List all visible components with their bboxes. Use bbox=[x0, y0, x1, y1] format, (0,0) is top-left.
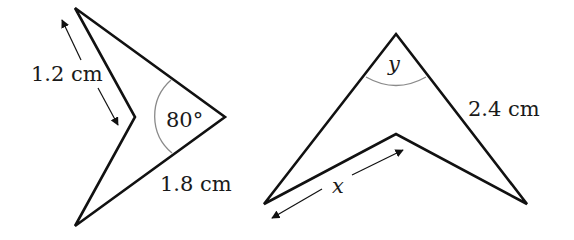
label-80-degrees: 80° bbox=[166, 108, 203, 132]
left-dart-figure: 1.2 cm 80° 1.8 cm bbox=[31, 8, 232, 226]
right-arrowhead-figure: x y 2.4 cm bbox=[264, 34, 540, 218]
diagram-canvas: 1.2 cm 80° 1.8 cm x y 2.4 cm bbox=[0, 0, 574, 240]
angle-y-arc bbox=[366, 77, 426, 86]
dim-arrow-1-2-top bbox=[62, 20, 81, 60]
label-2-4-cm: 2.4 cm bbox=[468, 97, 540, 121]
label-1-8-cm: 1.8 cm bbox=[160, 172, 232, 196]
label-1-2-cm: 1.2 cm bbox=[31, 62, 103, 86]
dim-arrow-x-lower bbox=[272, 189, 322, 218]
label-x: x bbox=[332, 174, 344, 198]
dim-arrow-1-2-bottom bbox=[98, 88, 118, 125]
label-y: y bbox=[387, 52, 401, 76]
